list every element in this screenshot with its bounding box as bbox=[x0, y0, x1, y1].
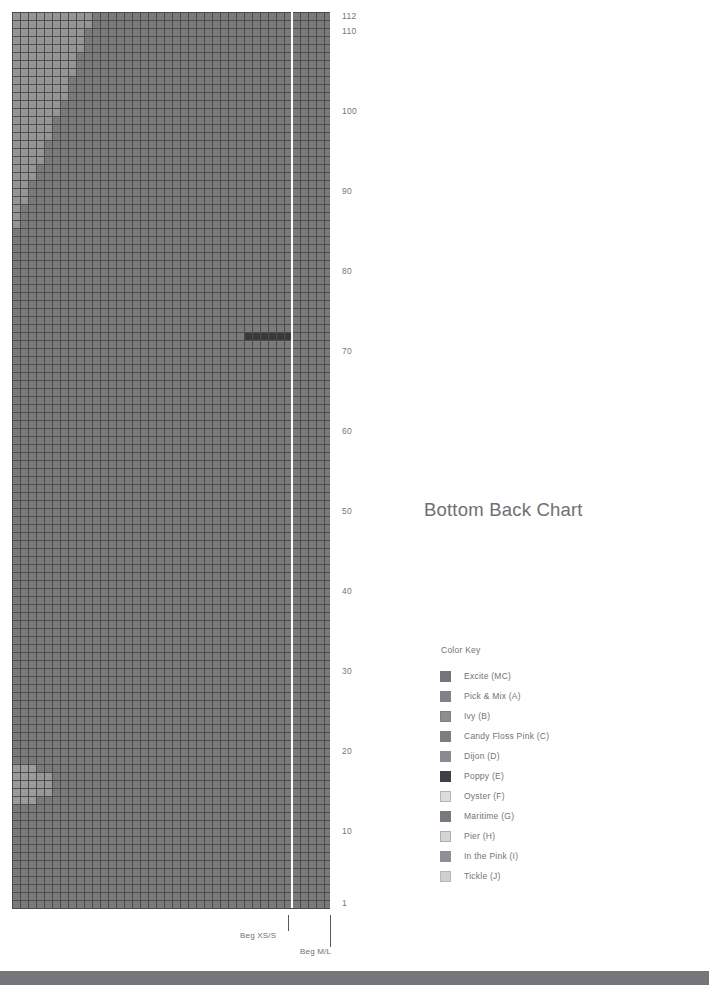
color-key-row: Pier (H) bbox=[440, 826, 670, 846]
color-swatch bbox=[440, 691, 451, 702]
color-key-label: Ivy (B) bbox=[464, 711, 490, 721]
color-key-legend: Color Key Excite (MC)Pick & Mix (A)Ivy (… bbox=[440, 645, 670, 886]
footer-bar bbox=[0, 971, 709, 985]
row-label-40: 40 bbox=[342, 587, 352, 596]
size-label-beg-xs-s: Beg XS/S bbox=[240, 931, 276, 940]
color-key-row: Pick & Mix (A) bbox=[440, 686, 670, 706]
color-key-label: Tickle (J) bbox=[464, 871, 501, 881]
knitting-chart-grid bbox=[12, 12, 330, 915]
row-label-112: 112 bbox=[342, 12, 356, 21]
size-tick-beg-m-l bbox=[330, 915, 331, 947]
row-label-90: 90 bbox=[342, 187, 352, 196]
row-label-100: 100 bbox=[342, 107, 357, 116]
row-label-20: 20 bbox=[342, 747, 352, 756]
color-key-label: Excite (MC) bbox=[464, 671, 511, 681]
row-label-50: 50 bbox=[342, 507, 352, 516]
color-swatch bbox=[440, 771, 451, 782]
color-swatch bbox=[440, 811, 451, 822]
color-key-label: Maritime (G) bbox=[464, 811, 514, 821]
color-swatch bbox=[440, 751, 451, 762]
color-key-row: Oyster (F) bbox=[440, 786, 670, 806]
row-label-10: 10 bbox=[342, 827, 352, 836]
color-key-label: In the Pink (I) bbox=[464, 851, 518, 861]
row-label-1: 1 bbox=[342, 899, 347, 908]
color-swatch bbox=[440, 851, 451, 862]
color-key-label: Pick & Mix (A) bbox=[464, 691, 521, 701]
color-key-row: Tickle (J) bbox=[440, 866, 670, 886]
size-tick-beg-xs-s bbox=[288, 915, 289, 931]
chart-grid-canvas bbox=[12, 12, 330, 915]
color-key-label: Pier (H) bbox=[464, 831, 495, 841]
row-label-60: 60 bbox=[342, 427, 352, 436]
color-key-heading: Color Key bbox=[440, 645, 670, 655]
row-label-110: 110 bbox=[342, 27, 356, 36]
color-key-row: In the Pink (I) bbox=[440, 846, 670, 866]
color-key-row: Candy Floss Pink (C) bbox=[440, 726, 670, 746]
page-title: Bottom Back Chart bbox=[424, 498, 583, 522]
row-label-80: 80 bbox=[342, 267, 352, 276]
color-key-label: Candy Floss Pink (C) bbox=[464, 731, 549, 741]
color-key-label: Dijon (D) bbox=[464, 751, 500, 761]
color-key-row-list: Excite (MC)Pick & Mix (A)Ivy (B)Candy Fl… bbox=[440, 666, 670, 886]
color-swatch bbox=[440, 831, 451, 842]
color-swatch bbox=[440, 791, 451, 802]
color-key-label: Oyster (F) bbox=[464, 791, 505, 801]
color-swatch bbox=[440, 731, 451, 742]
row-label-30: 30 bbox=[342, 667, 352, 676]
color-key-row: Maritime (G) bbox=[440, 806, 670, 826]
color-key-row: Ivy (B) bbox=[440, 706, 670, 726]
color-key-row: Dijon (D) bbox=[440, 746, 670, 766]
color-key-row: Poppy (E) bbox=[440, 766, 670, 786]
color-key-label: Poppy (E) bbox=[464, 771, 504, 781]
row-number-axis: 1121101009080706050403020101 bbox=[336, 12, 376, 915]
row-label-70: 70 bbox=[342, 347, 352, 356]
color-key-row: Excite (MC) bbox=[440, 666, 670, 686]
color-swatch bbox=[440, 711, 451, 722]
size-label-beg-m-l: Beg M/L bbox=[300, 947, 331, 956]
color-swatch bbox=[440, 871, 451, 882]
color-swatch bbox=[440, 671, 451, 682]
